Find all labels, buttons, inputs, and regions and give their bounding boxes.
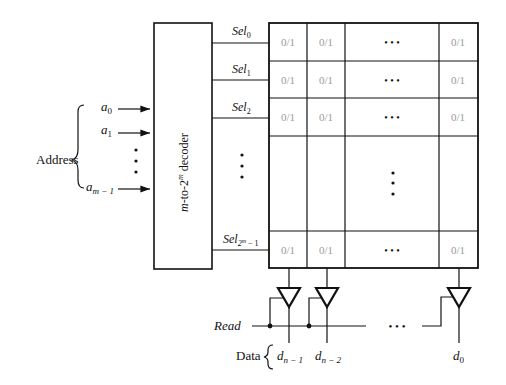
data-brace: [264, 345, 273, 369]
junction-dot: [268, 324, 273, 329]
sel-last-label: Sel2m − 1: [223, 232, 259, 248]
cell: 0/1: [451, 111, 465, 123]
cell: 0/1: [319, 36, 333, 48]
sel1-label: Sel1: [232, 62, 251, 78]
input-ellipsis: [134, 148, 137, 173]
address-group: Address a0 a1 am − 1: [36, 99, 150, 196]
cell-ellipsis: • • •: [384, 112, 400, 123]
tristate-buffers: [270, 268, 470, 343]
data-outputs: Data dn − 1 dn − 2 d0: [236, 345, 465, 369]
cell: 0/1: [281, 111, 295, 123]
cell: 0/1: [451, 74, 465, 86]
output-dn-1: dn − 1: [277, 348, 303, 365]
cell: 0/1: [319, 244, 333, 256]
cell-ellipsis: • • •: [384, 75, 400, 86]
decoder: m-to-2m decoder: [154, 23, 212, 269]
sel0-label: Sel0: [232, 24, 251, 40]
decoder-label: m-to-2m decoder: [176, 133, 191, 212]
read-label: Read: [213, 318, 241, 333]
cell: 0/1: [281, 36, 295, 48]
address-brace: [72, 105, 84, 188]
cell: 0/1: [281, 74, 295, 86]
junction-dot: [307, 324, 312, 329]
sel-ellipsis: [240, 153, 243, 178]
cell-ellipsis: • • •: [384, 245, 400, 256]
select-lines: Sel0 Sel1 Sel2 Sel2m − 1: [212, 24, 269, 250]
cell: 0/1: [451, 244, 465, 256]
cell: 0/1: [451, 36, 465, 48]
input-a0: a0: [101, 99, 113, 116]
grid-vertical-ellipsis: [391, 171, 394, 195]
output-d0: d0: [453, 348, 465, 365]
read-ellipsis: • • •: [388, 320, 405, 332]
cell: 0/1: [281, 244, 295, 256]
data-label: Data: [236, 348, 261, 363]
input-a1: a1: [101, 122, 112, 139]
cell-ellipsis: • • •: [384, 37, 400, 48]
cell: 0/1: [319, 74, 333, 86]
input-am-1: am − 1: [86, 179, 114, 196]
memory-diagram: Address a0 a1 am − 1 m-to-2m decoder Sel…: [0, 0, 506, 385]
output-dn-2: dn − 2: [315, 348, 342, 365]
cell: 0/1: [319, 111, 333, 123]
sel2-label: Sel2: [232, 100, 251, 116]
memory-grid: 0/1 0/1 • • • 0/1 0/1 0/1 • • • 0/1 0/1 …: [269, 23, 478, 268]
